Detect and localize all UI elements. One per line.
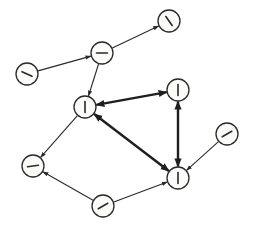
edge-n2-n4-arrow	[88, 64, 98, 96]
edges-layer	[38, 26, 218, 202]
edge-n6-n7-arrow	[187, 142, 219, 171]
edge-n2-n1-arrow	[112, 26, 158, 48]
node-n2	[91, 42, 113, 64]
node-n8	[22, 155, 44, 177]
edge-n4-n5-bidirectional-arrow	[96, 92, 166, 105]
node-n5	[167, 79, 189, 101]
edge-n4-n8-arrow	[41, 116, 78, 158]
node-n6	[216, 123, 238, 145]
node-n4	[74, 96, 96, 118]
node-n9	[92, 195, 114, 217]
edge-n3-n2-arrow	[38, 56, 91, 71]
node-n3	[16, 63, 38, 85]
node-n1	[158, 10, 180, 32]
edge-n9-n8-arrow	[43, 172, 93, 201]
network-diagram	[0, 0, 254, 229]
node-n7	[167, 167, 189, 189]
edge-n9-n7-arrow	[114, 182, 167, 202]
edge-n4-n7-bidirectional-arrow	[94, 114, 169, 171]
